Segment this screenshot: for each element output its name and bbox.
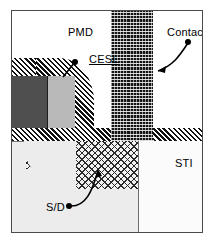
region-pmd-gap (94, 58, 111, 128)
callout-dot-sd (66, 203, 72, 209)
label-sti: STI (175, 157, 193, 169)
label-sd: S/D (46, 201, 65, 213)
label-cesl: CESL (89, 53, 119, 65)
region-contact-plug (111, 11, 153, 141)
callout-dot-cesl (72, 59, 78, 65)
region-source-drain (26, 141, 138, 189)
region-gate-spacer (48, 76, 75, 128)
figure-frame: PMD CESL Contact STI S/D (11, 10, 203, 233)
label-contact: Contact (167, 26, 203, 38)
figure-canvas: PMD CESL Contact STI S/D (0, 0, 214, 246)
sd-left-curve-mask-lower (24, 169, 64, 191)
label-pmd: PMD (68, 26, 93, 38)
region-sti (138, 141, 203, 233)
callout-dot-contact (185, 39, 191, 45)
region-gate-electrode (12, 76, 48, 128)
